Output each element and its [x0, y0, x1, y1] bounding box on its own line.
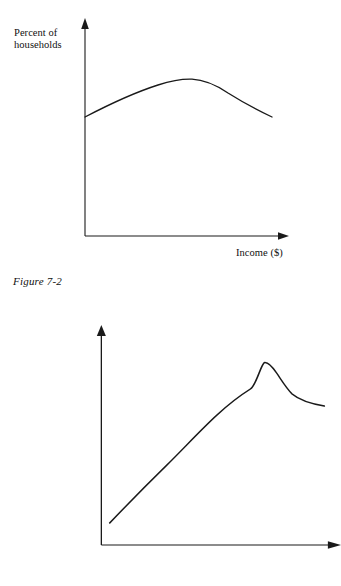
y-axis-label-top: Percent of households	[14, 27, 88, 50]
x-axis-arrowhead-top	[278, 232, 289, 240]
figure-caption: Figure 7-2	[13, 275, 62, 287]
distribution-curve-top	[85, 79, 272, 117]
x-axis-arrowhead-bottom	[328, 541, 341, 549]
figure-top: Percent of households Income ($) Figure …	[0, 0, 341, 270]
x-axis-label-top: Income ($)	[236, 247, 336, 259]
figure-bottom: Percent of households Income ($)	[0, 300, 341, 586]
y-axis-arrowhead-bottom	[97, 325, 106, 336]
distribution-curve-bottom	[110, 362, 325, 523]
chart-bottom-graphic	[0, 300, 341, 586]
